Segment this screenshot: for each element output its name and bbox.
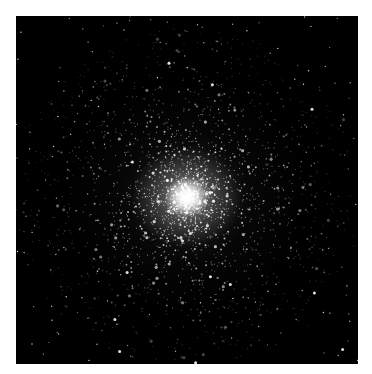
star-cluster-image [16,16,358,364]
starfield [16,16,358,364]
